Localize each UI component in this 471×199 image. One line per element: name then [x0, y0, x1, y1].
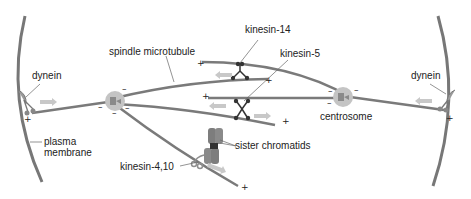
label-plasma-membrane-line2: membrane — [44, 147, 92, 158]
arrow-right-kinesin-5 — [254, 112, 271, 120]
label-spindle-microtubule: spindle microtubule — [109, 46, 196, 57]
label-plasma-membrane-line1: plasma — [44, 136, 77, 147]
svg-text:+: + — [265, 75, 273, 85]
kinesin-5-motor-icon — [234, 99, 250, 120]
svg-text:–: – — [327, 98, 332, 108]
label-kinesin-5: kinesin-5 — [280, 48, 320, 59]
svg-text:–: – — [354, 85, 359, 95]
svg-text:+: + — [241, 182, 249, 192]
svg-text:+: + — [282, 116, 290, 126]
svg-text:–: – — [98, 102, 103, 112]
svg-text:–: – — [125, 103, 130, 113]
spindle-microtubule-upper — [115, 79, 268, 98]
movement-arrows — [40, 71, 432, 174]
astral-microtubule-right — [350, 97, 444, 110]
svg-text:+: + — [24, 114, 32, 124]
svg-text:–: – — [328, 86, 333, 96]
polarity-signs: + + + + + + + – – – – – – – — [24, 58, 454, 192]
mitotic-spindle-diagram: + + + + + + + – – – – – – – spindle micr… — [0, 0, 471, 199]
arrow-left-dynein-right — [415, 97, 432, 105]
label-centrosome: centrosome — [320, 111, 373, 122]
label-dynein-right: dynein — [411, 70, 440, 81]
label-dynein-left: dynein — [32, 70, 61, 81]
label-kinesin-4-10: kinesin-4,10 — [120, 161, 174, 172]
label-sister-chromatids: sister chromatids — [235, 140, 311, 151]
kinetochore-microtubule — [117, 106, 238, 186]
arrow-right-dynein-left — [40, 98, 57, 106]
dynein-right-motor-icon — [438, 90, 456, 113]
plasma-membrane-left — [18, 16, 42, 182]
label-kinesin-14: kinesin-14 — [245, 24, 291, 35]
svg-text:+: + — [197, 58, 205, 68]
sister-chromatids-icon — [204, 128, 223, 164]
svg-text:+: + — [202, 91, 210, 101]
svg-text:+: + — [446, 113, 454, 123]
svg-text:–: – — [112, 108, 117, 118]
arrow-left-kinesin-5 — [209, 102, 226, 110]
arrow-left-kinesin-14 — [215, 71, 232, 79]
svg-text:–: – — [122, 84, 127, 94]
